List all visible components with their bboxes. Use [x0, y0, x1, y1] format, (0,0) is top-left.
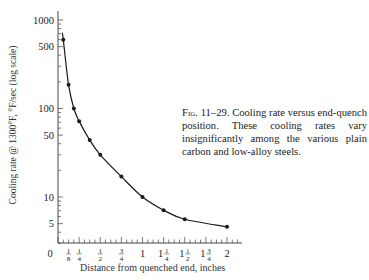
svg-text:1: 1: [158, 248, 163, 259]
y-tick-label: 1000: [33, 15, 54, 26]
y-tick-label: 100: [38, 103, 54, 114]
y-axis-ticks: 100050010050105: [33, 15, 63, 244]
x-tick-label: 112: [179, 247, 190, 263]
figure-number: Fig. 11–29.: [182, 107, 229, 118]
data-point: [183, 217, 187, 221]
x-tick-label: 2: [224, 248, 229, 259]
svg-text:0: 0: [47, 248, 52, 259]
svg-text:1: 1: [77, 247, 81, 255]
svg-text:1: 1: [165, 247, 169, 255]
y-tick-label: 50: [44, 130, 55, 141]
x-axis-ticks: 01814123411141121342: [47, 237, 237, 263]
x-tick-label: 14: [77, 247, 82, 263]
x-tick-label: 34: [119, 247, 124, 263]
data-point: [88, 138, 92, 142]
x-tick-label: 12: [98, 247, 103, 263]
svg-text:1: 1: [200, 248, 205, 259]
data-point: [162, 208, 166, 212]
data-point: [72, 107, 76, 111]
x-tick-label: 114: [158, 247, 169, 263]
svg-text:1: 1: [67, 247, 71, 255]
svg-text:2: 2: [224, 248, 229, 259]
svg-text:8: 8: [67, 255, 71, 263]
svg-text:3: 3: [207, 247, 211, 255]
svg-text:3: 3: [120, 247, 124, 255]
data-point: [77, 119, 81, 123]
svg-text:1: 1: [99, 247, 103, 255]
y-tick-label: 500: [38, 41, 54, 52]
data-point: [225, 225, 229, 229]
figure-caption: Fig. 11–29. Cooling rate versus end-quen…: [182, 106, 367, 158]
x-tick-label: 1: [140, 248, 145, 259]
data-point: [61, 38, 65, 42]
data-point: [98, 153, 102, 157]
y-tick-label: 5: [49, 218, 54, 229]
y-axis-label: Cooling rate @ 1300°F, °F/sec (log scale…: [8, 20, 18, 230]
data-point: [67, 83, 71, 87]
data-point: [119, 175, 123, 179]
x-tick-label: 18: [66, 247, 71, 263]
data-point: [141, 195, 145, 199]
x-axis-label: Distance from quenched end, inches: [80, 262, 225, 273]
x-tick-label: 0: [47, 248, 52, 259]
svg-text:1: 1: [186, 247, 190, 255]
y-tick-label: 10: [44, 192, 55, 203]
svg-text:1: 1: [140, 248, 145, 259]
svg-text:1: 1: [179, 248, 184, 259]
x-tick-label: 134: [200, 247, 211, 263]
